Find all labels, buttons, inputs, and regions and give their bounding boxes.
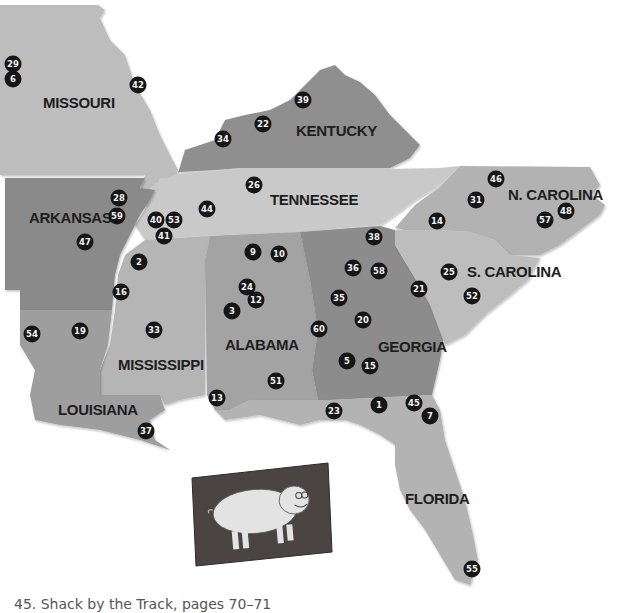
marker-9[interactable]: 9	[245, 244, 262, 261]
marker-20[interactable]: 20	[355, 312, 372, 329]
label-south-carolina: S. CAROLINA	[467, 263, 562, 280]
marker-26[interactable]: 26	[246, 177, 263, 194]
svg-text:19: 19	[74, 326, 86, 336]
svg-text:31: 31	[470, 195, 482, 205]
svg-text:7: 7	[427, 411, 433, 421]
svg-text:46: 46	[490, 174, 502, 184]
svg-text:2: 2	[136, 257, 142, 267]
marker-34[interactable]: 34	[215, 131, 232, 148]
svg-text:38: 38	[368, 232, 380, 242]
svg-text:44: 44	[201, 204, 213, 214]
marker-52[interactable]: 52	[464, 288, 481, 305]
svg-text:60: 60	[313, 324, 325, 334]
marker-1[interactable]: 1	[371, 397, 388, 414]
marker-42[interactable]: 42	[130, 77, 147, 94]
svg-text:22: 22	[257, 119, 269, 129]
label-florida: FLORIDA	[405, 490, 470, 507]
svg-text:48: 48	[560, 206, 572, 216]
marker-40[interactable]: 40	[148, 212, 165, 229]
marker-59[interactable]: 59	[109, 208, 126, 225]
svg-text:42: 42	[132, 80, 144, 90]
label-georgia: GEORGIA	[378, 338, 447, 355]
marker-60[interactable]: 60	[311, 321, 328, 338]
label-louisiana: LOUISIANA	[58, 401, 138, 418]
label-mississippi: MISSISSIPPI	[118, 356, 204, 373]
svg-text:13: 13	[211, 393, 223, 403]
marker-54[interactable]: 54	[24, 326, 41, 343]
label-north-carolina: N. CAROLINA	[508, 186, 603, 203]
marker-48[interactable]: 48	[558, 203, 575, 220]
svg-text:57: 57	[539, 215, 551, 225]
marker-3[interactable]: 3	[224, 303, 241, 320]
marker-15[interactable]: 15	[362, 358, 379, 375]
svg-text:58: 58	[373, 266, 385, 276]
southeast-us-map: MISSOURI KENTUCKY TENNESSEE ARKANSAS MIS…	[0, 0, 628, 613]
marker-39[interactable]: 39	[295, 92, 312, 109]
svg-text:37: 37	[140, 426, 152, 436]
marker-28[interactable]: 28	[111, 190, 128, 207]
marker-7[interactable]: 7	[422, 408, 439, 425]
marker-58[interactable]: 58	[371, 263, 388, 280]
marker-38[interactable]: 38	[366, 229, 383, 246]
svg-text:36: 36	[347, 263, 359, 273]
marker-29[interactable]: 29	[5, 56, 22, 73]
svg-text:5: 5	[344, 356, 350, 366]
svg-text:21: 21	[413, 284, 425, 294]
marker-6[interactable]: 6	[5, 71, 22, 88]
marker-16[interactable]: 16	[113, 284, 130, 301]
marker-44[interactable]: 44	[199, 201, 216, 218]
marker-31[interactable]: 31	[468, 192, 485, 209]
marker-33[interactable]: 33	[146, 322, 163, 339]
marker-36[interactable]: 36	[345, 260, 362, 277]
marker-19[interactable]: 19	[72, 323, 89, 340]
svg-text:16: 16	[115, 287, 127, 297]
svg-text:25: 25	[443, 267, 455, 277]
marker-12[interactable]: 12	[248, 292, 265, 309]
svg-text:33: 33	[148, 325, 160, 335]
pig-painting-image	[192, 463, 332, 566]
label-missouri: MISSOURI	[43, 94, 115, 111]
svg-text:10: 10	[273, 249, 285, 259]
marker-21[interactable]: 21	[411, 281, 428, 298]
svg-text:45: 45	[408, 398, 420, 408]
marker-57[interactable]: 57	[537, 212, 554, 229]
svg-text:29: 29	[7, 59, 19, 69]
svg-text:40: 40	[150, 215, 162, 225]
svg-text:39: 39	[297, 95, 309, 105]
svg-text:41: 41	[158, 231, 170, 241]
svg-text:59: 59	[111, 211, 123, 221]
marker-55[interactable]: 55	[464, 561, 481, 578]
marker-53[interactable]: 53	[166, 212, 183, 229]
marker-14[interactable]: 14	[429, 213, 446, 230]
svg-text:52: 52	[466, 291, 478, 301]
svg-text:24: 24	[241, 282, 253, 292]
svg-text:47: 47	[79, 237, 91, 247]
marker-47[interactable]: 47	[77, 234, 94, 251]
svg-text:26: 26	[248, 180, 260, 190]
svg-text:53: 53	[168, 215, 180, 225]
marker-35[interactable]: 35	[331, 290, 348, 307]
svg-text:6: 6	[10, 74, 16, 84]
marker-13[interactable]: 13	[209, 390, 226, 407]
svg-text:12: 12	[250, 295, 262, 305]
marker-41[interactable]: 41	[156, 228, 173, 245]
marker-51[interactable]: 51	[268, 373, 285, 390]
svg-text:28: 28	[113, 193, 125, 203]
marker-2[interactable]: 2	[131, 254, 148, 271]
svg-text:15: 15	[364, 361, 376, 371]
marker-45[interactable]: 45	[406, 395, 423, 412]
svg-text:3: 3	[229, 306, 235, 316]
marker-23[interactable]: 23	[326, 403, 343, 420]
svg-text:14: 14	[431, 216, 443, 226]
marker-5[interactable]: 5	[339, 353, 356, 370]
marker-22[interactable]: 22	[255, 116, 272, 133]
marker-37[interactable]: 37	[138, 423, 155, 440]
marker-25[interactable]: 25	[441, 264, 458, 281]
svg-text:23: 23	[328, 406, 340, 416]
label-alabama: ALABAMA	[225, 336, 299, 353]
caption-text: 45. Shack by the Track, pages 70–71	[14, 596, 271, 612]
marker-46[interactable]: 46	[488, 171, 505, 188]
svg-text:9: 9	[250, 247, 256, 257]
marker-10[interactable]: 10	[271, 246, 288, 263]
svg-text:20: 20	[357, 315, 369, 325]
